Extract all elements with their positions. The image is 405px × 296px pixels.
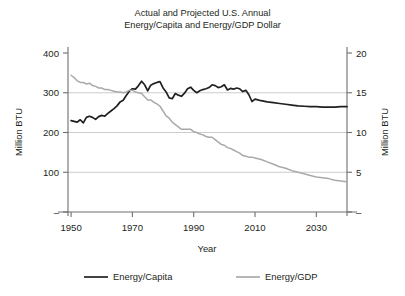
gridlines bbox=[68, 93, 347, 173]
left-tick-label: 400 bbox=[43, 48, 59, 59]
x-tick-label: 1950 bbox=[60, 222, 81, 233]
left-tick-label: – bbox=[54, 207, 60, 218]
tick-marks bbox=[63, 53, 352, 217]
x-tick-label: 2010 bbox=[244, 222, 265, 233]
right-tick-label: 10 bbox=[356, 127, 367, 138]
legend-label-energy-gdp: Energy/GDP bbox=[265, 271, 318, 282]
x-axis-title: Year bbox=[198, 243, 217, 254]
left-tick-label: 200 bbox=[43, 127, 59, 138]
tick-labels: –100200300400–51015201950197019902010203… bbox=[43, 48, 367, 234]
right-axis-title: Million BTU bbox=[379, 108, 390, 156]
right-tick-label: 5 bbox=[356, 167, 361, 178]
left-tick-label: 100 bbox=[43, 167, 59, 178]
chart-figure: Actual and Projected U.S. Annual Energy/… bbox=[0, 0, 405, 296]
right-tick-label: 20 bbox=[356, 48, 367, 59]
series-line-energy-gdp bbox=[71, 75, 347, 182]
axis-lines bbox=[58, 47, 357, 216]
x-tick-label: 1970 bbox=[122, 222, 143, 233]
x-tick-label: 2030 bbox=[306, 222, 327, 233]
energy-line-chart: Actual and Projected U.S. Annual Energy/… bbox=[0, 0, 405, 296]
x-tick-label: 1990 bbox=[183, 222, 204, 233]
right-tick-label: 15 bbox=[356, 87, 367, 98]
series-layer bbox=[71, 75, 347, 182]
legend-label-energy-capita: Energy/Capita bbox=[113, 271, 173, 282]
left-axis-title: Million BTU bbox=[13, 108, 24, 156]
left-tick-label: 300 bbox=[43, 87, 59, 98]
right-tick-label: – bbox=[356, 207, 362, 218]
chart-title: Actual and Projected U.S. Annual Energy/… bbox=[124, 8, 281, 30]
chart-title-line-2: Energy/Capita and Energy/GDP Dollar bbox=[124, 20, 281, 30]
series-line-energy-capita bbox=[71, 81, 347, 123]
legend: Energy/Capita Energy/GDP bbox=[84, 271, 318, 282]
chart-title-line-1: Actual and Projected U.S. Annual bbox=[135, 8, 271, 18]
